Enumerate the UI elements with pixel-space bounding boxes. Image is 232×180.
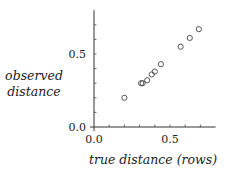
y-axis-label-line1: observed <box>5 68 63 83</box>
y-axis-label-line2: distance <box>7 84 60 99</box>
y-tick-label: 0.0 <box>69 121 87 134</box>
data-points <box>122 27 202 101</box>
data-point <box>122 95 127 100</box>
data-point <box>187 35 192 40</box>
y-tick-label: 0.5 <box>69 48 87 61</box>
data-point <box>178 44 183 49</box>
axes: 0.00.50.00.5 <box>69 10 216 146</box>
data-point <box>152 69 157 74</box>
data-point <box>145 78 150 83</box>
data-point <box>158 62 163 67</box>
scatter-chart: 0.00.50.00.5 observed distance true dist… <box>0 0 232 180</box>
x-axis-label: true distance (rows) <box>89 152 217 167</box>
data-point <box>196 27 201 32</box>
data-point <box>149 72 154 77</box>
x-tick-label: 0.5 <box>161 133 179 146</box>
x-tick-label: 0.0 <box>85 133 103 146</box>
